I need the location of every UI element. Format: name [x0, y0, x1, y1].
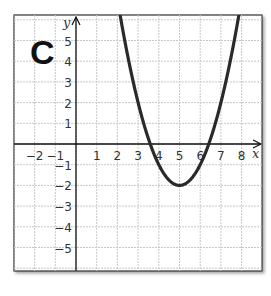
- y-tick-label: 2: [64, 97, 72, 111]
- y-tick-label: −2: [54, 179, 72, 193]
- x-tick-label: −2: [26, 149, 44, 163]
- x-tick-label: 5: [176, 149, 184, 163]
- x-axis-label: x: [252, 146, 260, 161]
- y-tick-label: 3: [64, 76, 72, 90]
- y-tick-label: −5: [54, 242, 72, 256]
- x-tick-label: 3: [134, 149, 142, 163]
- parabola-graph: −2−11234567854321−1−2−3−4−5 C x y: [0, 0, 271, 296]
- y-tick-label: −4: [54, 221, 72, 235]
- y-tick-label: 1: [64, 117, 72, 131]
- x-tick-label: 7: [217, 149, 225, 163]
- panel-label: C: [30, 33, 55, 71]
- y-axis-label: y: [62, 15, 71, 30]
- x-tick-label: 8: [238, 149, 246, 163]
- y-tick-label: 5: [64, 35, 72, 49]
- x-tick-label: 1: [93, 149, 101, 163]
- y-tick-label: 4: [64, 55, 72, 69]
- y-tick-label: −3: [54, 200, 72, 214]
- y-tick-label: −1: [54, 159, 72, 173]
- x-tick-label: 2: [114, 149, 122, 163]
